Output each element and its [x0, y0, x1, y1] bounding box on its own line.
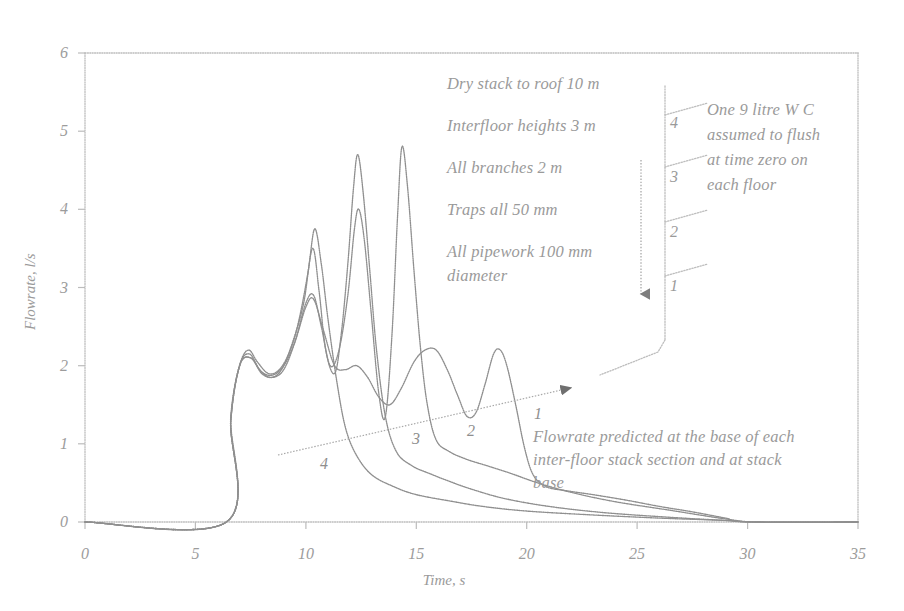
parameter-note-line: Dry stack to roof 10 m	[447, 74, 600, 94]
x-tick-label: 10	[298, 545, 314, 563]
curve-1	[85, 298, 858, 530]
parameter-note-line: diameter	[447, 266, 507, 286]
curve-label-2: 2	[467, 422, 475, 440]
branch-floor-1	[665, 264, 708, 276]
y-tick-label: 2	[40, 357, 68, 375]
x-axis-title: Time, s	[423, 572, 466, 589]
floor-number-2: 2	[670, 223, 678, 241]
x-tick-label: 0	[81, 545, 89, 563]
stack-note-line: One 9 litre W C	[707, 100, 814, 120]
y-tick-marks	[78, 53, 85, 522]
parameter-note-line: Traps all 50 mm	[447, 200, 558, 220]
curve-label-1: 1	[534, 405, 542, 423]
y-tick-label: 1	[40, 435, 68, 453]
curve-label-4: 4	[320, 455, 328, 473]
x-tick-label: 35	[850, 545, 866, 563]
x-tick-label: 25	[629, 545, 645, 563]
x-tick-label: 5	[191, 545, 199, 563]
y-tick-label: 3	[40, 279, 68, 297]
parameter-note-line: All pipework 100 mm	[447, 242, 592, 262]
curve-sequence-arrow	[278, 388, 570, 455]
x-tick-label: 30	[740, 545, 756, 563]
y-tick-label: 0	[40, 513, 68, 531]
stack-note-line: at time zero on	[707, 150, 808, 170]
y-tick-label: 6	[40, 44, 68, 62]
flow-note-line: inter-floor stack section and at stack	[533, 450, 782, 470]
stack-schematic	[600, 86, 708, 375]
y-tick-label: 4	[40, 200, 68, 218]
branch-floor-2	[665, 210, 708, 222]
flowrate-chart-figure: 0 1 2 3 4 5 6 0 5 10 15 20 25 30 35 Time…	[0, 0, 904, 611]
curve-label-3: 3	[412, 430, 420, 448]
x-tick-marks	[85, 522, 858, 529]
stack-base-bend	[600, 340, 665, 375]
y-tick-label: 5	[40, 122, 68, 140]
branch-floor-3	[665, 155, 708, 167]
x-tick-label: 15	[408, 545, 424, 563]
stack-note-line: each floor	[707, 175, 776, 195]
stack-note-line: assumed to flush	[707, 125, 820, 145]
parameter-note-line: All branches 2 m	[447, 158, 562, 178]
flow-note-line: base	[533, 473, 564, 493]
y-axis-title: Flowrate, l/s	[22, 253, 39, 330]
floor-number-4: 4	[670, 114, 678, 132]
floor-number-3: 3	[670, 168, 678, 186]
parameter-note-line: Interfloor heights 3 m	[447, 116, 596, 136]
x-tick-label: 20	[519, 545, 535, 563]
flow-note-line: Flowrate predicted at the base of each	[533, 427, 795, 447]
floor-number-1: 1	[670, 277, 678, 295]
